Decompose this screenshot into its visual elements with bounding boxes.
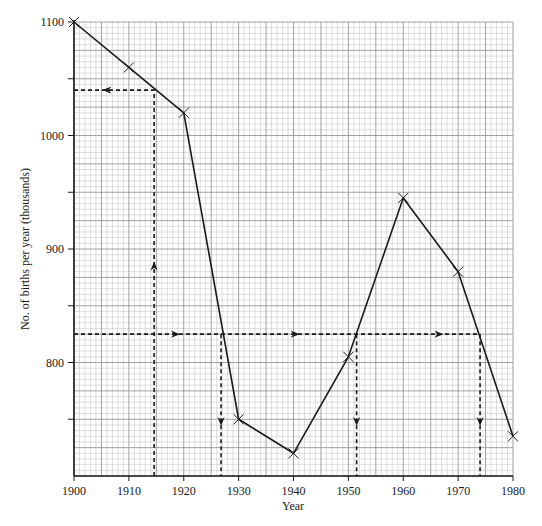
y-tick-label: 900 — [46, 242, 64, 256]
x-axis-title: Year — [282, 499, 304, 513]
x-tick-label: 1930 — [227, 484, 251, 498]
x-axis-ticks: 190019101920193019401950196019701980 — [62, 476, 525, 498]
x-tick-label: 1950 — [336, 484, 360, 498]
x-tick-label: 1970 — [446, 484, 470, 498]
x-tick-label: 1940 — [282, 484, 306, 498]
x-tick-label: 1980 — [501, 484, 525, 498]
y-axis-title: No. of births per year (thousands) — [18, 168, 32, 330]
x-tick-label: 1900 — [62, 484, 86, 498]
dashed-reading-lines — [74, 87, 484, 477]
y-tick-label: 1100 — [40, 15, 64, 29]
x-tick-label: 1960 — [391, 484, 415, 498]
y-tick-label: 800 — [46, 356, 64, 370]
y-tick-label: 1000 — [40, 129, 64, 143]
births-line-chart: 80090010001100 1900191019201930194019501… — [0, 0, 542, 526]
y-axis-ticks: 80090010001100 — [40, 15, 74, 419]
x-tick-label: 1910 — [117, 484, 141, 498]
x-tick-label: 1920 — [172, 484, 196, 498]
